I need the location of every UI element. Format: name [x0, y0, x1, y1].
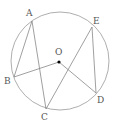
label-b: B: [4, 76, 11, 86]
label-a: A: [25, 8, 33, 18]
circle-diagram: A E B C D O: [0, 0, 116, 122]
segment-ed: [92, 27, 96, 93]
chords: [14, 21, 96, 109]
label-d: D: [97, 95, 104, 105]
segment-ec: [46, 27, 92, 109]
center-point: [57, 60, 60, 63]
label-e: E: [93, 16, 100, 26]
segment-od: [59, 62, 96, 93]
label-o: O: [55, 47, 62, 57]
label-c: C: [41, 112, 48, 122]
segment-bo: [14, 62, 59, 77]
segment-ac: [32, 21, 46, 109]
